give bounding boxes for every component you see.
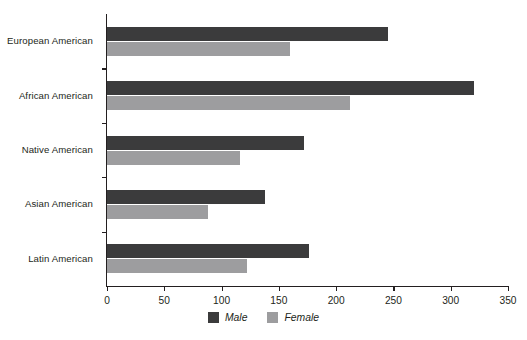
y-axis-tick — [102, 232, 107, 233]
x-axis-tick-label: 350 — [500, 295, 517, 306]
legend-item-female: Female — [267, 312, 319, 323]
bar-female-asian-american — [107, 205, 208, 219]
x-axis-tick-label: 100 — [213, 295, 230, 306]
x-axis-tick — [279, 286, 280, 291]
x-axis-tick-label: 250 — [385, 295, 402, 306]
category-label-european-american: European American — [0, 35, 93, 46]
x-axis-tick — [336, 286, 337, 291]
bar-female-african-american — [107, 96, 350, 110]
bar-female-european-american — [107, 42, 290, 56]
x-axis-tick-label: 50 — [159, 295, 170, 306]
category-axis-labels: European AmericanAfrican AmericanNative … — [0, 14, 100, 286]
x-axis-tick — [107, 286, 108, 291]
x-axis-tick — [451, 286, 452, 291]
category-label-native-american: Native American — [0, 144, 93, 155]
x-axis-tick — [508, 286, 509, 291]
bar-male-latin-american — [107, 244, 309, 258]
bar-female-native-american — [107, 151, 240, 165]
category-label-asian-american: Asian American — [0, 198, 93, 209]
x-axis-tick-label: 300 — [442, 295, 459, 306]
plot-area: 050100150200250300350 — [107, 14, 508, 286]
legend-item-male: Male — [208, 312, 248, 323]
x-axis-tick — [393, 286, 394, 291]
legend-label-male: Male — [225, 312, 248, 323]
chart-legend: MaleFemale — [0, 312, 527, 323]
y-axis-tick — [102, 68, 107, 69]
bar-male-asian-american — [107, 190, 265, 204]
bar-female-latin-american — [107, 259, 247, 273]
x-axis-tick — [164, 286, 165, 291]
category-label-latin-american: Latin American — [0, 253, 93, 264]
legend-swatch-male-icon — [208, 312, 219, 323]
bar-chart: European AmericanAfrican AmericanNative … — [0, 0, 527, 340]
y-axis-tick — [102, 123, 107, 124]
x-axis-tick-label: 0 — [104, 295, 110, 306]
bar-male-native-american — [107, 136, 304, 150]
category-label-african-american: African American — [0, 90, 93, 101]
legend-swatch-female-icon — [267, 312, 278, 323]
x-axis-line — [106, 286, 508, 287]
x-axis-tick-label: 150 — [270, 295, 287, 306]
bar-male-european-american — [107, 27, 388, 41]
legend-label-female: Female — [284, 312, 319, 323]
x-axis-tick — [222, 286, 223, 291]
y-axis-tick — [102, 177, 107, 178]
bar-male-african-american — [107, 81, 474, 95]
x-axis-tick-label: 200 — [328, 295, 345, 306]
